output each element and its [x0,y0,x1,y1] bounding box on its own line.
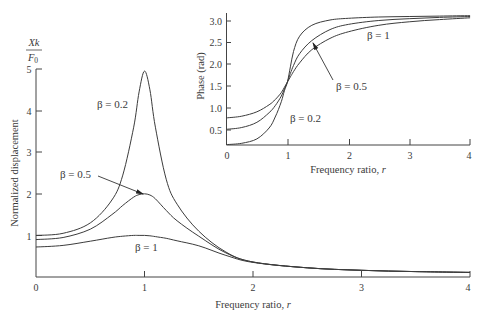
curve-beta-0.5 [36,194,470,273]
inset-label-beta-0.5: β = 0.5 [336,80,368,92]
inset-xtick-2: 2 [347,150,352,161]
main-x-axis-title: Frequency ratio, r [215,299,291,310]
inset-label-beta-0.2: β = 0.2 [290,112,321,124]
main-y-axis-title: Normalized displacement [9,119,20,227]
label-beta-0.2: β = 0.2 [97,98,128,110]
main-ytick-5: 5 [27,64,32,75]
inset-xtick-4: 4 [467,150,472,161]
inset-label-beta-1: β = 1 [367,29,390,41]
label-beta-1: β = 1 [135,241,158,253]
inset-x-axis-title: Frequency ratio, r [310,164,386,175]
inset-ytick-3.0: 3.0 [210,16,223,27]
main-ytick-3: 3 [27,147,32,158]
phase-inset-plot: 3.0 2.5 2.0 1.5 1.0 0.5 0 1 2 3 4 Freque… [195,8,476,175]
main-y-units-fraction: Xk F0 [26,37,42,65]
main-xtick-1: 1 [142,282,147,293]
main-xtick-3: 3 [359,282,364,293]
main-xtick-0: 0 [34,282,39,293]
inset-xtick-1: 1 [286,150,291,161]
fraction-numerator: Xk [27,37,39,48]
label-beta-0.5: β = 0.5 [60,168,92,180]
main-xtick-4: 4 [466,282,471,293]
curve-beta-1 [36,235,470,272]
main-y-ticks: 5 4 3 2 1 [27,64,43,242]
inset-ytick-1.0: 1.0 [210,103,223,114]
main-x-ticks: 0 1 2 3 4 [34,271,471,293]
inset-ytick-2.5: 2.5 [210,37,223,48]
inset-ytick-1.5: 1.5 [210,81,223,92]
inset-xtick-3: 3 [408,150,413,161]
main-ytick-4: 4 [27,106,32,117]
frequency-response-figure: 5 4 3 2 1 0 1 2 3 4 Frequency ratio, r N… [0,0,486,319]
main-xtick-2: 2 [251,282,256,293]
main-ytick-1: 1 [27,231,32,242]
inset-ytick-2.0: 2.0 [210,59,223,70]
inset-y-axis-title: Phase (rad) [195,52,207,100]
main-ytick-2: 2 [27,189,32,200]
inset-ytick-0.5: 0.5 [210,125,223,136]
arrow-beta-0.5 [98,176,143,194]
inset-xtick-0: 0 [225,150,230,161]
